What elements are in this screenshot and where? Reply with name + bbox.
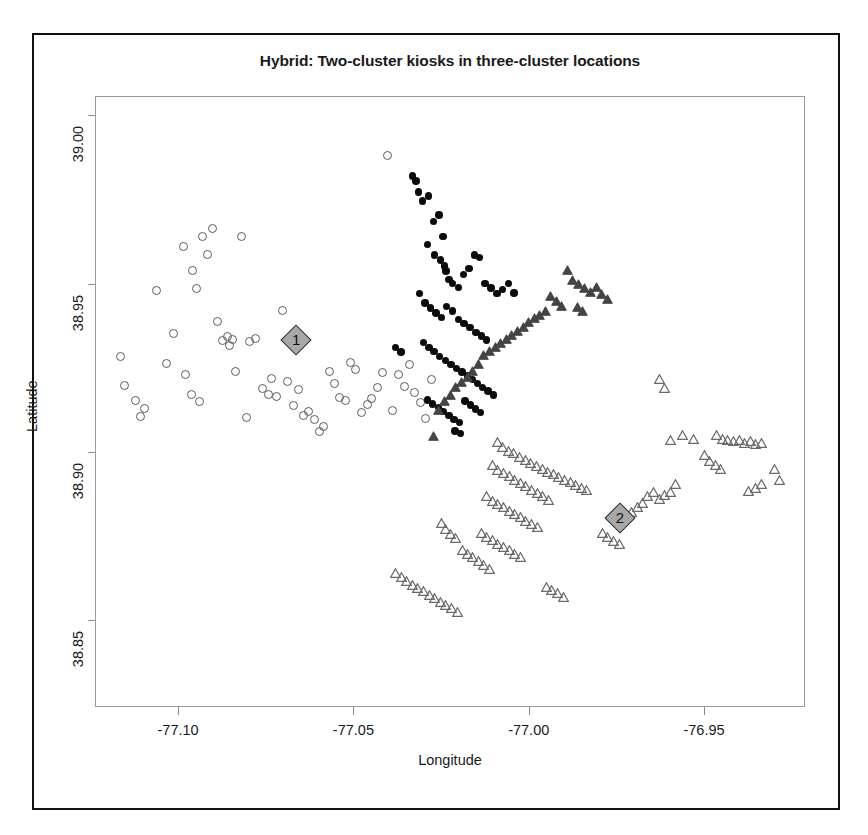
data-point-open-triangle [515,512,526,522]
data-point-open-triangle [688,434,699,444]
data-point-open-triangle [659,490,670,500]
data-point-open-circle [116,352,125,361]
data-point-open-circle [140,404,149,413]
data-point-open-triangle [665,435,676,445]
data-point-open-triangle [498,468,509,478]
data-point-filled-triangle [572,302,583,312]
data-point-open-triangle [498,502,509,512]
data-point-open-circle [388,406,397,415]
data-point-open-triangle [642,491,653,501]
data-point-filled-circle [442,267,450,275]
data-point-filled-circle [449,307,457,315]
data-point-filled-triangle [591,282,602,292]
data-point-filled-triangle [478,350,489,360]
y-tick-mark [88,115,95,116]
cluster-centroid-1: 1 [283,327,309,353]
data-point-open-circle [228,335,237,344]
data-point-filled-triangle [439,396,450,406]
data-point-open-circle [283,377,292,386]
data-point-open-triangle [520,481,531,491]
data-point-open-triangle [537,464,548,474]
data-point-open-triangle [542,467,553,477]
data-point-filled-triangle [450,382,461,392]
data-point-filled-circle [435,404,443,412]
data-point-filled-triangle [534,310,545,320]
data-point-filled-circle [453,365,461,373]
data-point-filled-circle [450,416,458,424]
chart-page: Hybrid: Two-cluster kiosks in three-clus… [0,0,868,835]
data-point-open-triangle [515,478,526,488]
data-point-open-triangle [504,506,515,516]
data-point-filled-triangle [495,338,506,348]
data-point-open-triangle [515,552,526,562]
data-point-filled-triangle [567,275,578,285]
data-point-open-triangle [487,535,498,545]
data-point-filled-triangle [545,291,556,301]
data-point-open-triangle [532,488,543,498]
data-point-open-circle [272,392,281,401]
data-point-open-circle [416,398,425,407]
data-point-filled-circle [499,286,507,294]
data-point-open-circle [195,397,204,406]
x-tick-label: -77.10 [138,722,218,738]
y-tick-label: 39.00 [70,114,86,174]
x-tick-mark [178,707,179,715]
data-point-open-triangle [481,532,492,542]
data-point-filled-triangle [484,346,495,356]
data-point-filled-circle [416,290,424,298]
data-point-open-triangle [570,480,581,490]
data-point-open-circle [198,232,207,241]
data-point-filled-circle [412,177,420,185]
data-point-open-circle [378,368,387,377]
data-point-open-circle [169,329,178,338]
data-point-open-triangle [390,568,401,578]
data-point-open-circle [363,400,372,409]
data-point-open-triangle [467,552,478,562]
data-point-open-triangle [576,483,587,493]
data-point-open-circle [264,390,273,399]
data-point-open-triangle [670,479,681,489]
data-point-open-triangle [659,383,670,393]
data-point-open-triangle [739,438,750,448]
data-point-filled-circle [427,304,435,312]
data-point-filled-triangle [529,313,540,323]
data-point-open-triangle [654,374,665,384]
data-point-filled-circle [451,427,459,435]
data-point-open-triangle [407,580,418,590]
data-point-filled-triangle [501,334,512,344]
data-point-open-triangle [440,524,451,534]
data-point-filled-circle [424,396,432,404]
data-point-open-triangle [504,471,515,481]
data-point-open-triangle [734,435,745,445]
data-point-filled-circle [432,309,440,317]
data-point-filled-circle [439,233,447,241]
data-point-filled-circle [439,408,447,416]
data-point-open-triangle [637,498,648,508]
data-point-open-triangle [543,495,554,505]
data-point-filled-circle [467,401,475,409]
data-point-open-triangle [481,491,492,501]
data-point-open-triangle [452,607,463,617]
data-point-open-circle [203,250,212,259]
data-point-open-triangle [526,485,537,495]
data-point-open-triangle [565,477,576,487]
data-point-open-triangle [440,600,451,610]
data-point-open-triangle [446,603,457,613]
data-point-open-triangle [435,597,446,607]
data-point-open-circle [346,358,355,367]
data-point-open-triangle [492,465,503,475]
data-point-filled-triangle [445,390,456,400]
data-point-open-triangle [478,560,489,570]
centroid-label: 1 [283,327,309,353]
x-tick-label: -77.05 [313,722,393,738]
data-point-open-circle [231,367,240,376]
data-point-filled-circle [409,172,417,180]
data-point-open-circle [237,232,246,241]
data-point-filled-circle [436,353,444,361]
data-point-open-circle [188,266,197,275]
data-point-open-triangle [503,446,514,456]
data-point-open-circle [351,365,360,374]
data-point-filled-triangle [462,372,473,382]
data-point-filled-circle [474,380,482,388]
data-point-filled-triangle [456,377,467,387]
